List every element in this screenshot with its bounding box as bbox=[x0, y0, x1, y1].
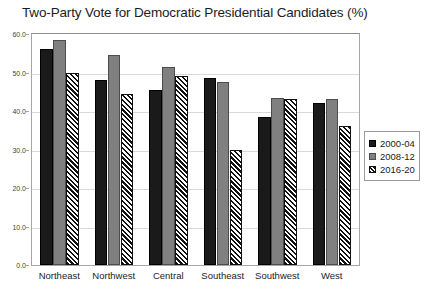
legend-label: 2016-20 bbox=[380, 164, 415, 175]
y-tick-label: 50.0 bbox=[12, 69, 26, 76]
y-tick-label: 60.0 bbox=[12, 31, 26, 38]
bar-west-2016-20 bbox=[339, 126, 352, 265]
y-tick-mark bbox=[26, 73, 29, 74]
bars-layer bbox=[32, 34, 359, 265]
bar-northwest-2000-04 bbox=[95, 80, 108, 265]
bar-northwest-2016-20 bbox=[121, 94, 134, 265]
bar-southwest-2016-20 bbox=[284, 99, 297, 265]
legend-item-2000-04[interactable]: 2000-04 bbox=[369, 137, 415, 149]
bar-west-2008-12 bbox=[326, 99, 339, 265]
chart-legend: 2000-042008-122016-20 bbox=[364, 131, 420, 181]
y-tick-label: 30.0 bbox=[12, 146, 26, 153]
y-tick-label: 40.0 bbox=[12, 108, 26, 115]
bar-southeast-2008-12 bbox=[217, 82, 230, 265]
bar-northeast-2008-12 bbox=[53, 40, 66, 265]
x-axis-label-southwest: Southwest bbox=[255, 270, 299, 281]
y-tick-label: 10.0 bbox=[12, 223, 26, 230]
legend-label: 2008-12 bbox=[380, 151, 415, 162]
bar-group bbox=[32, 34, 87, 265]
bar-southeast-2016-20 bbox=[230, 150, 243, 266]
bar-northwest-2008-12 bbox=[108, 55, 121, 265]
y-tick-mark bbox=[26, 34, 29, 35]
y-tick-label: 0.0 bbox=[16, 262, 26, 269]
bar-northeast-2016-20 bbox=[66, 73, 79, 266]
bar-southeast-2000-04 bbox=[204, 78, 217, 265]
bar-southwest-2008-12 bbox=[271, 98, 284, 265]
legend-swatch-icon bbox=[369, 140, 376, 147]
bar-central-2008-12 bbox=[162, 67, 175, 265]
x-axis: NortheastNorthwestCentralSoutheastSouthw… bbox=[32, 270, 359, 290]
y-tick-mark bbox=[26, 227, 29, 228]
bar-group bbox=[196, 34, 251, 265]
y-tick-label: 20.0 bbox=[12, 185, 26, 192]
x-axis-label-west: West bbox=[321, 270, 342, 281]
bar-group bbox=[141, 34, 196, 265]
legend-item-2008-12[interactable]: 2008-12 bbox=[369, 150, 415, 162]
legend-swatch-icon bbox=[369, 153, 376, 160]
y-tick-mark bbox=[26, 188, 29, 189]
bar-west-2000-04 bbox=[313, 103, 326, 265]
x-axis-label-northwest: Northwest bbox=[92, 270, 135, 281]
y-tick-mark bbox=[26, 111, 29, 112]
bar-southwest-2000-04 bbox=[258, 117, 271, 265]
x-axis-label-southeast: Southeast bbox=[201, 270, 244, 281]
legend-item-2016-20[interactable]: 2016-20 bbox=[369, 163, 415, 175]
y-tick-mark bbox=[26, 265, 29, 266]
bar-group bbox=[87, 34, 142, 265]
bar-group bbox=[250, 34, 305, 265]
legend-swatch-icon bbox=[369, 166, 376, 173]
y-tick-mark bbox=[26, 150, 29, 151]
chart-title: Two-Party Vote for Democratic Presidenti… bbox=[22, 5, 368, 20]
bar-chart: Two-Party Vote for Democratic Presidenti… bbox=[0, 0, 430, 293]
y-axis: 0.010.020.030.040.050.060.0 bbox=[0, 33, 29, 266]
legend-label: 2000-04 bbox=[380, 138, 415, 149]
bar-central-2000-04 bbox=[149, 90, 162, 265]
x-axis-label-northeast: Northeast bbox=[39, 270, 80, 281]
bar-group bbox=[305, 34, 360, 265]
bar-central-2016-20 bbox=[175, 76, 188, 265]
bar-northeast-2000-04 bbox=[40, 49, 53, 265]
x-axis-label-central: Central bbox=[153, 270, 184, 281]
